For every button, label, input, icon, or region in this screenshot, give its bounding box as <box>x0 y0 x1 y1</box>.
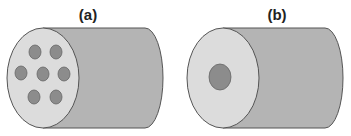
cylinder-b-hole <box>209 64 231 90</box>
cylinder-b <box>187 28 343 128</box>
cylinder-a <box>7 28 163 128</box>
diagram-canvas <box>0 0 351 136</box>
